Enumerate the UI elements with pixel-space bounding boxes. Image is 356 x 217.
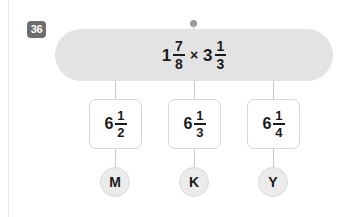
- denominator: 4: [273, 125, 284, 139]
- question-banner: 1 7 8 × 3 1 3: [55, 29, 333, 81]
- bubble-letter: K: [189, 174, 199, 190]
- connector-banner-to-option-1: [115, 81, 116, 99]
- whole-part: 6: [262, 116, 271, 132]
- fraction-part: 7 8: [173, 39, 185, 71]
- fraction-part: 1 3: [194, 109, 205, 139]
- bubble-letter: M: [109, 174, 121, 190]
- numerator: 1: [273, 109, 284, 123]
- whole-part: 1: [162, 47, 171, 64]
- worksheet-canvas: 36 1 7 8 × 3 1 3: [0, 0, 356, 217]
- numerator: 7: [173, 39, 185, 54]
- mixed-number-right: 3 1 3: [203, 39, 226, 71]
- operator-symbol: ×: [190, 47, 198, 63]
- connector-option-3-to-bubble-y: [273, 149, 274, 167]
- margin-rule: [8, 0, 9, 217]
- denominator: 3: [194, 125, 205, 139]
- option-box-k[interactable]: 6 1 3: [168, 99, 221, 149]
- fraction-part: 1 2: [115, 109, 126, 139]
- fraction-part: 1 4: [273, 109, 284, 139]
- denominator: 3: [215, 56, 227, 71]
- option-box-y[interactable]: 6 1 4: [247, 99, 300, 149]
- option-box-m[interactable]: 6 1 2: [89, 99, 142, 149]
- fraction-part: 1 3: [215, 39, 227, 71]
- bubble-letter: Y: [268, 174, 277, 190]
- numerator: 1: [194, 109, 205, 123]
- option-value-y: 6 1 4: [262, 109, 284, 139]
- numerator: 1: [215, 39, 227, 54]
- denominator: 2: [115, 125, 126, 139]
- connector-banner-to-option-2: [194, 81, 195, 99]
- answer-bubble-k[interactable]: K: [179, 167, 209, 197]
- whole-part: 6: [104, 116, 113, 132]
- connector-banner-to-option-3: [273, 81, 274, 99]
- mixed-number-left: 1 7 8: [162, 39, 185, 71]
- denominator: 8: [173, 56, 185, 71]
- connector-option-2-to-bubble-k: [194, 149, 195, 167]
- question-expression: 1 7 8 × 3 1 3: [162, 39, 227, 71]
- option-value-m: 6 1 2: [104, 109, 126, 139]
- whole-part: 3: [203, 47, 212, 64]
- connector-option-1-to-bubble-m: [115, 149, 116, 167]
- answer-bubble-y[interactable]: Y: [258, 167, 288, 197]
- whole-part: 6: [183, 116, 192, 132]
- option-value-k: 6 1 3: [183, 109, 205, 139]
- answer-bubble-m[interactable]: M: [100, 167, 130, 197]
- question-number-badge: 36: [27, 21, 46, 38]
- numerator: 1: [115, 109, 126, 123]
